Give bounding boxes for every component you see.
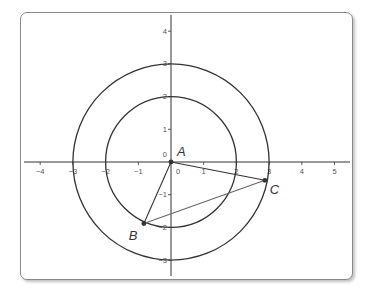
- segment-ac: [171, 162, 265, 180]
- y-tick-label: −1: [158, 190, 167, 199]
- y-tick-label: 4: [163, 27, 167, 36]
- x-tick-label: −4: [36, 167, 45, 176]
- y-tick-label: 0: [163, 150, 167, 159]
- segment-bc: [144, 180, 265, 223]
- x-tick-label: 5: [332, 167, 336, 176]
- x-tick-label: 4: [300, 167, 304, 176]
- axes: −4−3−2−1012345−3−2−101234: [24, 15, 350, 276]
- point-label-c: C: [270, 182, 280, 197]
- point-label-b: B: [129, 228, 138, 243]
- point-b: [141, 221, 146, 226]
- points: ABC: [129, 144, 280, 243]
- point-c: [262, 178, 267, 183]
- x-tick-label: −1: [134, 167, 143, 176]
- coordinate-plane: −4−3−2−1012345−3−2−101234 ABC: [0, 0, 371, 290]
- y-tick-label: 1: [163, 125, 167, 134]
- point-a: [169, 160, 174, 165]
- point-label-a: A: [176, 144, 186, 159]
- x-tick-label: 0: [176, 167, 180, 176]
